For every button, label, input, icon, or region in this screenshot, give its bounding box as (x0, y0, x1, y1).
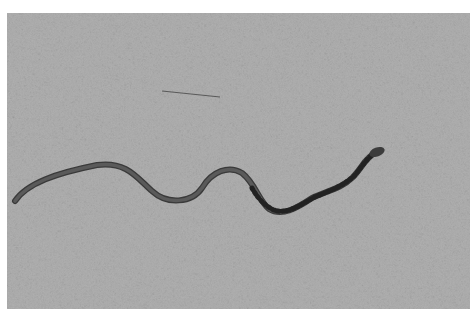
sand-texture (7, 13, 470, 309)
photo (7, 13, 470, 309)
